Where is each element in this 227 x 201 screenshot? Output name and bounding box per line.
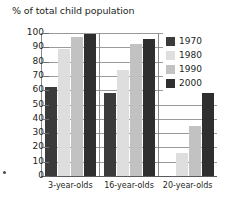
y-tick-mark-70 xyxy=(44,76,49,77)
bar-2000-20-year-olds[interactable] xyxy=(202,93,214,176)
bar-1980-20-year-olds[interactable] xyxy=(176,153,188,176)
y-tick-label-60: 60 xyxy=(18,84,44,94)
y-tick-label-0: 0 xyxy=(18,170,44,180)
y-tick-label-70: 70 xyxy=(18,70,44,80)
chart-title: % of total child population xyxy=(12,5,134,16)
page-edge-mark xyxy=(3,171,6,174)
bar-2000-3-year-olds[interactable] xyxy=(84,34,96,176)
y-tick-label-50: 50 xyxy=(18,99,44,109)
x-axis-label-20-year-olds: 20-year-olds xyxy=(158,181,217,190)
y-tick-mark-50 xyxy=(44,105,49,106)
y-tick-label-20: 20 xyxy=(18,141,44,151)
bar-1990-20-year-olds[interactable] xyxy=(189,126,201,176)
y-tick-label-40: 40 xyxy=(18,113,44,123)
bar-group xyxy=(41,33,99,176)
y-tick-mark-90 xyxy=(44,47,49,48)
y-tick-mark-80 xyxy=(44,62,49,63)
bar-1970-3-year-olds[interactable] xyxy=(45,87,57,176)
y-tick-mark-10 xyxy=(44,162,49,163)
y-tick-label-30: 30 xyxy=(18,127,44,137)
bar-group xyxy=(99,33,158,176)
chart-legend: 1970198019902000 xyxy=(163,32,224,92)
legend-label-1990: 1990 xyxy=(179,65,202,74)
gridline-0 xyxy=(41,176,217,177)
legend-label-2000: 2000 xyxy=(179,79,202,88)
bar-2000-16-year-olds[interactable] xyxy=(143,39,155,176)
legend-swatch-1980 xyxy=(166,51,175,60)
bar-chart: % of total child population 100908070605… xyxy=(0,0,227,201)
x-axis-label-16-year-olds: 16-year-olds xyxy=(100,181,159,190)
y-tick-mark-60 xyxy=(44,90,49,91)
x-axis-label-3-year-olds: 3-year-olds xyxy=(41,181,100,190)
y-tick-label-10: 10 xyxy=(18,156,44,166)
bar-1980-3-year-olds[interactable] xyxy=(58,49,70,176)
y-tick-label-90: 90 xyxy=(18,41,44,51)
bar-1990-3-year-olds[interactable] xyxy=(71,37,83,176)
y-tick-mark-20 xyxy=(44,147,49,148)
y-tick-mark-40 xyxy=(44,119,49,120)
legend-item-1970[interactable]: 1970 xyxy=(166,34,222,48)
legend-label-1970: 1970 xyxy=(179,37,202,46)
legend-item-1980[interactable]: 1980 xyxy=(166,48,222,62)
y-tick-label-100: 100 xyxy=(18,27,44,37)
legend-item-1990[interactable]: 1990 xyxy=(166,62,222,76)
legend-swatch-1990 xyxy=(166,65,175,74)
legend-label-1980: 1980 xyxy=(179,51,202,60)
y-tick-label-80: 80 xyxy=(18,56,44,66)
y-tick-mark-100 xyxy=(44,33,49,34)
legend-swatch-1970 xyxy=(166,37,175,46)
legend-swatch-2000 xyxy=(166,79,175,88)
legend-item-2000[interactable]: 2000 xyxy=(166,76,222,90)
y-tick-mark-30 xyxy=(44,133,49,134)
x-axis-labels: 3-year-olds16-year-olds20-year-olds xyxy=(41,181,217,190)
bar-1970-16-year-olds[interactable] xyxy=(104,93,116,176)
y-tick-mark-0 xyxy=(44,176,49,177)
bar-1990-16-year-olds[interactable] xyxy=(130,44,142,176)
bar-1980-16-year-olds[interactable] xyxy=(117,70,129,176)
